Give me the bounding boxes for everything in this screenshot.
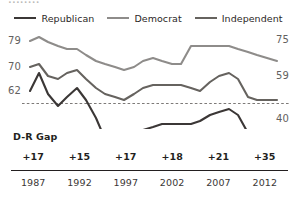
year-label-2007: 2007 bbox=[195, 177, 241, 191]
gap-value-1992: +15 bbox=[56, 151, 102, 165]
gap-values-row: +17 +15 +17 +18 +21 +35 bbox=[10, 151, 288, 165]
gap-section-title: D-R Gap bbox=[13, 131, 57, 142]
gap-value-1997: +17 bbox=[103, 151, 149, 165]
start-label-republican: 62 bbox=[8, 85, 21, 96]
x-axis-rule bbox=[11, 170, 288, 171]
year-label-2012: 2012 bbox=[242, 177, 288, 191]
end-label-republican: 40 bbox=[276, 113, 289, 124]
gap-value-2012: +35 bbox=[242, 151, 288, 165]
line-chart-plot bbox=[0, 26, 297, 129]
legend-label-democrat: Democrat bbox=[134, 13, 181, 24]
line-swatch-icon bbox=[107, 17, 129, 19]
legend-label-independent: Independent bbox=[222, 13, 283, 24]
chart-svg bbox=[0, 26, 297, 129]
legend-label-republican: Republican bbox=[41, 13, 94, 24]
end-label-democrat: 75 bbox=[276, 34, 289, 45]
series-line-independent bbox=[30, 64, 277, 100]
series-line-democrat bbox=[30, 37, 277, 70]
cropped-header-text: ∙∙∙∙∙∙∙∙ bbox=[8, 0, 40, 4]
gap-value-2007: +21 bbox=[195, 151, 241, 165]
year-label-1997: 1997 bbox=[103, 177, 149, 191]
end-label-independent: 59 bbox=[276, 70, 289, 81]
year-labels-row: 1987 1992 1997 2002 2007 2012 bbox=[10, 177, 288, 191]
start-label-independent: 70 bbox=[8, 61, 21, 72]
legend-item-independent[interactable]: Independent bbox=[195, 13, 283, 24]
line-swatch-icon bbox=[14, 17, 36, 19]
legend-item-democrat[interactable]: Democrat bbox=[107, 13, 181, 24]
chart-root: ∙∙∙∙∙∙∙∙ Republican Democrat Independent… bbox=[0, 0, 297, 201]
gap-value-2002: +18 bbox=[149, 151, 195, 165]
year-label-1992: 1992 bbox=[56, 177, 102, 191]
legend-item-republican[interactable]: Republican bbox=[14, 13, 94, 24]
chart-legend: Republican Democrat Independent bbox=[0, 10, 297, 26]
year-label-1987: 1987 bbox=[10, 177, 56, 191]
start-label-democrat: 79 bbox=[8, 35, 21, 46]
year-label-2002: 2002 bbox=[149, 177, 195, 191]
line-swatch-icon bbox=[195, 17, 217, 19]
gap-value-1987: +17 bbox=[10, 151, 56, 165]
